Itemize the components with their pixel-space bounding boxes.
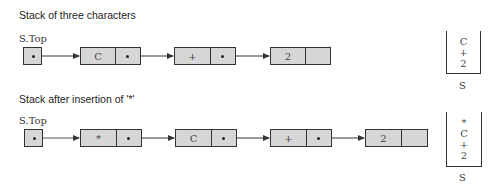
stack-item: 2 [460, 58, 466, 69]
diagram-title: Stack after insertion of '*' [19, 93, 134, 105]
list-node: C [175, 129, 237, 147]
stack-item: C [460, 36, 468, 47]
top-pointer-box [23, 47, 42, 65]
top-pointer-label: S.Top [19, 33, 47, 44]
list-node: + [174, 47, 236, 65]
list-node: * [80, 129, 142, 147]
node-value: 2 [271, 48, 305, 64]
list-node: C [80, 47, 141, 65]
stack-container: C + 2 [446, 31, 481, 74]
stack-container: * C + 2 [446, 112, 482, 167]
stack-label: S [459, 80, 466, 91]
diagram-title: Stack of three characters [19, 9, 136, 21]
top-pointer-label: S.Top [19, 115, 47, 126]
node-value: 2 [366, 130, 401, 146]
stack-item: + [460, 139, 468, 150]
stack-label: S [459, 172, 466, 183]
list-node: + [270, 129, 332, 147]
stack-item: * [462, 117, 467, 128]
stack-item: + [459, 47, 467, 58]
node-value: + [175, 48, 210, 64]
stack-item: 2 [461, 150, 467, 161]
node-value: C [176, 130, 211, 146]
node-value: * [81, 130, 116, 146]
stack-item: C [460, 128, 468, 139]
node-value: + [271, 130, 306, 146]
top-pointer-box [24, 129, 43, 147]
list-node-tail: 2 [270, 47, 331, 65]
list-node-tail: 2 [365, 129, 428, 147]
node-value: C [81, 48, 115, 64]
